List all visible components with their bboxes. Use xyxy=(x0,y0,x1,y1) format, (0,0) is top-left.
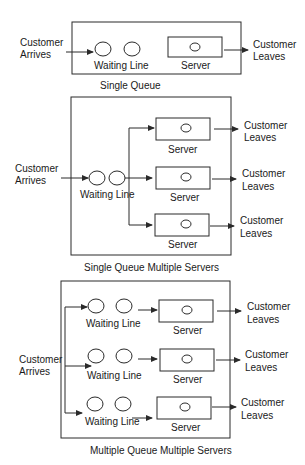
leave-label-line2: Leaves xyxy=(242,181,274,192)
arrive-label-line1: Customer xyxy=(19,354,63,365)
arrive-label-line2: Arrives xyxy=(15,175,46,186)
server-customer-circle xyxy=(181,220,191,228)
queue-diagrams: Customer Arrives Waiting Line Server Cus… xyxy=(0,0,305,465)
leave-label-line2: Leaves xyxy=(244,132,276,143)
server-customer-circle xyxy=(181,124,191,132)
single-queue-diagram: Customer Arrives Waiting Line Server Cus… xyxy=(20,22,297,91)
arrive-label-line1: Customer xyxy=(20,37,64,48)
leave-label-line1: Customer xyxy=(245,349,289,360)
waiting-line-label: Waiting Line xyxy=(85,416,140,427)
server-customer-circle xyxy=(181,173,191,181)
diagram-caption: Multiple Queue Multiple Servers xyxy=(90,445,232,456)
leave-label-line2: Leaves xyxy=(240,228,272,239)
customer-circle xyxy=(124,42,140,56)
customer-circle xyxy=(87,397,103,411)
leave-label-line2: Leaves xyxy=(241,410,273,421)
customer-circle xyxy=(109,171,125,185)
leave-label-line2: Leaves xyxy=(253,51,285,62)
customer-circle xyxy=(95,42,111,56)
waiting-line-label: Waiting Line xyxy=(87,370,142,381)
leave-label-line1: Customer xyxy=(253,39,297,50)
server-label: Server xyxy=(173,325,203,336)
server-label: Server xyxy=(168,239,198,250)
server-label: Server xyxy=(171,422,201,433)
customer-circle xyxy=(116,299,132,313)
single-queue-multiple-servers-diagram: Customer Arrives Waiting Line Server Cus… xyxy=(15,97,288,273)
server-label: Server xyxy=(170,192,200,203)
diagram-caption: Single Queue Multiple Servers xyxy=(84,262,219,273)
waiting-line-label: Waiting Line xyxy=(86,318,141,329)
leave-label-line1: Customer xyxy=(242,168,286,179)
arrive-label-line2: Arrives xyxy=(19,366,50,377)
leave-label-line2: Leaves xyxy=(245,362,277,373)
customer-circle xyxy=(115,397,131,411)
waiting-line-label: Waiting Line xyxy=(80,189,135,200)
server-customer-circle xyxy=(182,306,192,314)
server-label: Server xyxy=(181,60,211,71)
server-customer-circle xyxy=(180,403,190,411)
server-label: Server xyxy=(173,374,203,385)
leave-label-line1: Customer xyxy=(247,301,291,312)
customer-circle xyxy=(89,171,105,185)
multiple-queue-multiple-servers-diagram: Customer Arrives Waiting Line Server Cus… xyxy=(19,281,291,456)
customer-circle xyxy=(88,349,104,363)
waiting-line-label: Waiting Line xyxy=(94,60,149,71)
server-customer-circle xyxy=(182,355,192,363)
leave-label-line2: Leaves xyxy=(247,314,279,325)
arrive-label-line2: Arrives xyxy=(20,49,51,60)
server-label: Server xyxy=(168,144,198,155)
arrive-label-line1: Customer xyxy=(15,163,59,174)
customer-circle xyxy=(88,299,104,313)
customer-circle xyxy=(116,349,132,363)
diagram-caption: Single Queue xyxy=(100,80,161,91)
leave-label-line1: Customer xyxy=(240,215,284,226)
leave-label-line1: Customer xyxy=(244,120,288,131)
server-customer-circle xyxy=(190,43,200,51)
leave-label-line1: Customer xyxy=(241,397,285,408)
